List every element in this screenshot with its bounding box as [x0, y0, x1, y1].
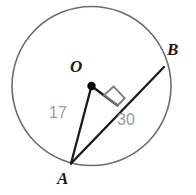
right-angle-square-icon — [104, 87, 125, 106]
label-radius-measure: 17 — [49, 105, 67, 121]
label-chord-measure: 30 — [117, 112, 135, 128]
label-point-a: A — [57, 170, 68, 187]
center-point-dot — [87, 82, 95, 90]
geometry-canvas — [0, 0, 196, 195]
label-point-b: B — [167, 41, 178, 58]
circle-geometry-diagram: O A B 17 30 — [0, 0, 196, 195]
label-center-o: O — [70, 58, 82, 75]
